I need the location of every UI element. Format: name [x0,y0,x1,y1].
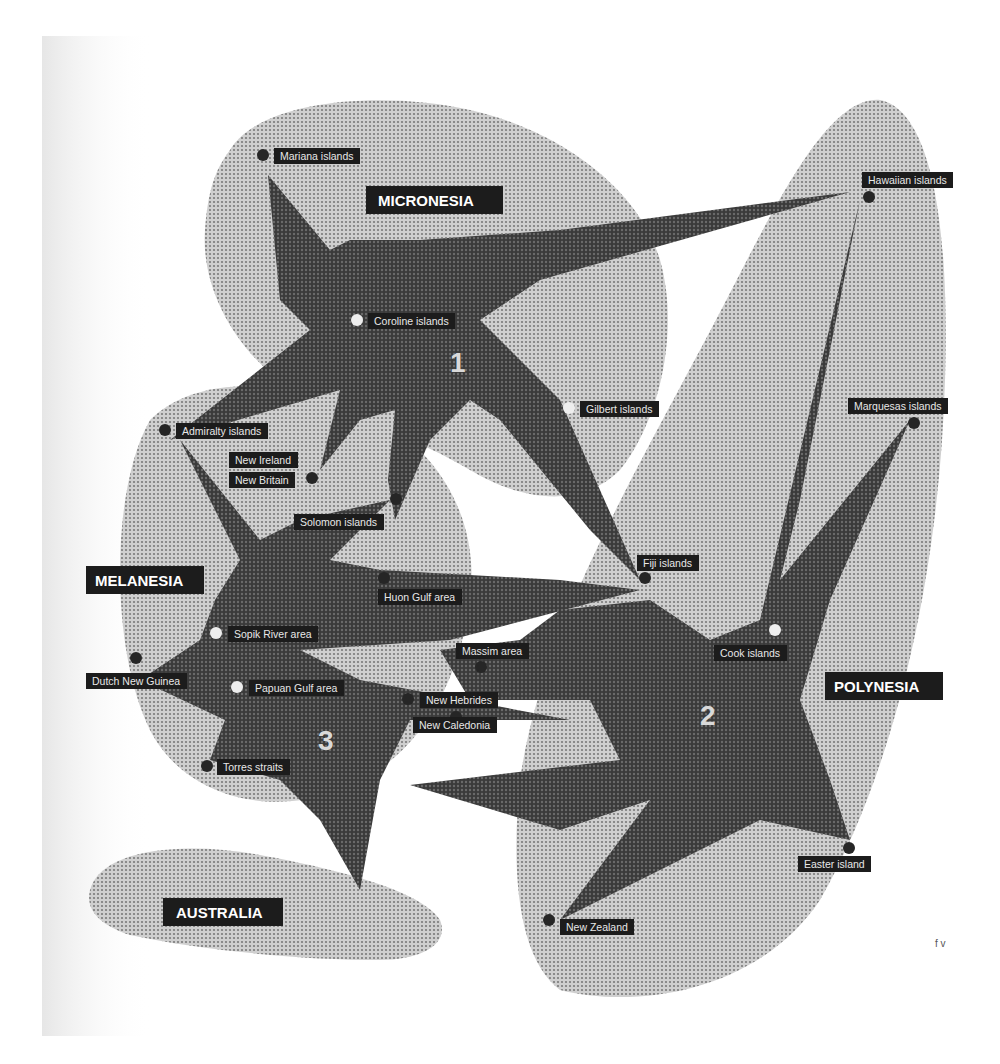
location-label-coroline-islands: Coroline islands [374,315,449,327]
svg-text:MICRONESIA: MICRONESIA [378,192,474,209]
location-label-new-caledonia: New Caledonia [419,719,490,731]
location-label-dutch-new-guinea: Dutch New Guinea [92,675,180,687]
location-dot-fiji-islands [639,572,651,584]
location-label-hawaiian-islands: Hawaiian islands [868,174,947,186]
location-dot-dutch-new-guinea [130,652,142,664]
cluster-number-1: 1 [450,347,466,378]
location-label-fiji-islands: Fiji islands [643,557,692,569]
location-label-huon-gulf-area: Huon Gulf area [384,591,455,603]
location-dot-hawaiian-islands [863,191,875,203]
location-label-new-hebrides: New Hebrides [426,694,492,706]
location-label-torres-straits: Torres straits [223,761,283,773]
location-dot-easter-island [843,842,855,854]
svg-text:POLYNESIA: POLYNESIA [834,678,919,695]
location-dot-papuan-gulf-area [231,681,243,693]
location-dot-cook-islands [769,624,781,636]
region-label-polynesia: POLYNESIA [825,672,943,700]
location-label-mariana-islands: Mariana islands [280,150,354,162]
location-label-admiralty-islands: Admiralty islands [182,425,261,437]
svg-text:AUSTRALIA: AUSTRALIA [176,904,263,921]
cluster-number-3: 3 [318,725,334,756]
location-dot-sopik-river-area [210,627,222,639]
region-label-australia: AUSTRALIA [163,898,283,926]
location-dot-new-ireland [306,472,318,484]
credit-mark: f v [935,938,946,949]
location-label-new-zealand: New Zealand [566,921,628,933]
location-label-sopik-river-area: Sopik River area [234,628,312,640]
location-label-easter-island: Easter island [804,858,865,870]
location-dot-marquesas-islands [908,417,920,429]
location-label-new-ireland: New Ireland [235,454,291,466]
location-dot-new-hebrides [402,693,414,705]
location-dot-new-zealand [543,914,555,926]
location-dot-huon-gulf-area [378,572,390,584]
location-dot-coroline-islands [351,314,363,326]
region-label-micronesia: MICRONESIA [366,186,503,214]
location-dot-solomon-islands [390,493,402,505]
location-dot-massim-area [475,661,487,673]
location-label-massim-area: Massim area [462,645,522,657]
location-label-gilbert-islands: Gilbert islands [586,403,653,415]
oceania-cluster-diagram: 1 2 3 MICRONESIA MELANESIA POLYNESIA AUS… [0,0,1000,1064]
location-label-marquesas-islands: Marquesas islands [854,400,942,412]
location-label-solomon-islands: Solomon islands [300,516,377,528]
location-label-cook-islands: Cook islands [720,647,780,659]
location-dot-torres-straits [201,760,213,772]
svg-text:MELANESIA: MELANESIA [95,572,184,589]
cluster-number-2: 2 [700,700,716,731]
location-label-new-britain: New Britain [235,474,289,486]
location-label-papuan-gulf-area: Papuan Gulf area [255,682,337,694]
location-dot-mariana-islands [257,149,269,161]
region-label-melanesia: MELANESIA [86,566,204,594]
location-dot-admiralty-islands [159,424,171,436]
location-dot-gilbert-islands [563,402,575,414]
